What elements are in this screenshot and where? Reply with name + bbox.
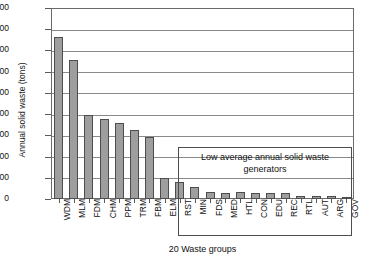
bar xyxy=(130,130,139,199)
x-axis-tick-label: RTL xyxy=(304,199,314,239)
bar-item xyxy=(96,8,111,199)
x-axis-category-labels: WDMMLMFDMCHMPPMTRMFBMELMRSTMINFDSMEDHTLC… xyxy=(51,201,354,241)
bar xyxy=(206,192,215,199)
bar-chart-figure: Annual solid waste (tons) 18001600140012… xyxy=(0,0,366,264)
annotation-label: Low average annual solid waste generator… xyxy=(180,152,350,175)
bar-item xyxy=(66,8,81,199)
x-axis-tick-label: FDS xyxy=(214,199,224,239)
y-axis-tick-label: 600 xyxy=(0,130,9,139)
bar-item xyxy=(127,8,142,199)
y-axis-tick-label: 1200 xyxy=(0,67,9,76)
bar xyxy=(69,60,78,199)
bar xyxy=(84,115,93,199)
y-axis-tick-label: 1000 xyxy=(0,88,9,97)
bar-item xyxy=(81,8,96,199)
x-axis-tick-label: REC xyxy=(289,199,299,239)
bar xyxy=(145,137,154,199)
x-axis-tick-label: GOV xyxy=(350,199,360,239)
x-axis-tick-label: FBM xyxy=(153,199,163,239)
y-axis-tick-label: 800 xyxy=(0,109,9,118)
bar-item xyxy=(142,8,157,199)
bar xyxy=(190,187,199,199)
bar xyxy=(236,192,245,199)
bar xyxy=(115,123,124,199)
bar xyxy=(100,119,109,199)
y-axis-tick-label: 200 xyxy=(0,173,9,182)
x-axis-tick-label: MIN xyxy=(198,199,208,239)
y-axis-tick-label: 1400 xyxy=(0,45,9,54)
x-axis-title: 20 Waste groups xyxy=(51,244,354,254)
x-axis-tick-label: EDU xyxy=(274,199,284,239)
y-axis-tick-label: 0 xyxy=(0,194,9,203)
bar xyxy=(160,178,169,199)
x-axis-tick-label: FDM xyxy=(92,199,102,239)
x-axis-tick-label: CHM xyxy=(108,199,118,239)
y-axis-tick-label: 1800 xyxy=(0,3,9,12)
x-axis-tick-label: ARG xyxy=(335,199,345,239)
y-axis-tick-label: 400 xyxy=(0,152,9,161)
x-axis-tick-label: ELM xyxy=(168,199,178,239)
x-axis-tick-label: TRM xyxy=(138,199,148,239)
x-axis-tick-label: WDM xyxy=(62,199,72,239)
bar-item xyxy=(112,8,127,199)
y-axis-tick-label: 1600 xyxy=(0,24,9,33)
bar xyxy=(175,182,184,199)
y-axis-title: Annual solid waste (tons) xyxy=(17,30,27,190)
x-axis-tick-label: CON xyxy=(259,199,269,239)
x-axis-tick-label: AUT xyxy=(320,199,330,239)
bar xyxy=(54,37,63,199)
x-axis-tick-label: MED xyxy=(229,199,239,239)
x-axis-tick-label: PPM xyxy=(123,199,133,239)
bar-item xyxy=(157,8,172,199)
x-axis-tick-label: MLM xyxy=(77,199,87,239)
x-axis-tick-label: RST xyxy=(183,199,193,239)
x-axis-tick-label: HTL xyxy=(244,199,254,239)
bar-item xyxy=(51,8,66,199)
